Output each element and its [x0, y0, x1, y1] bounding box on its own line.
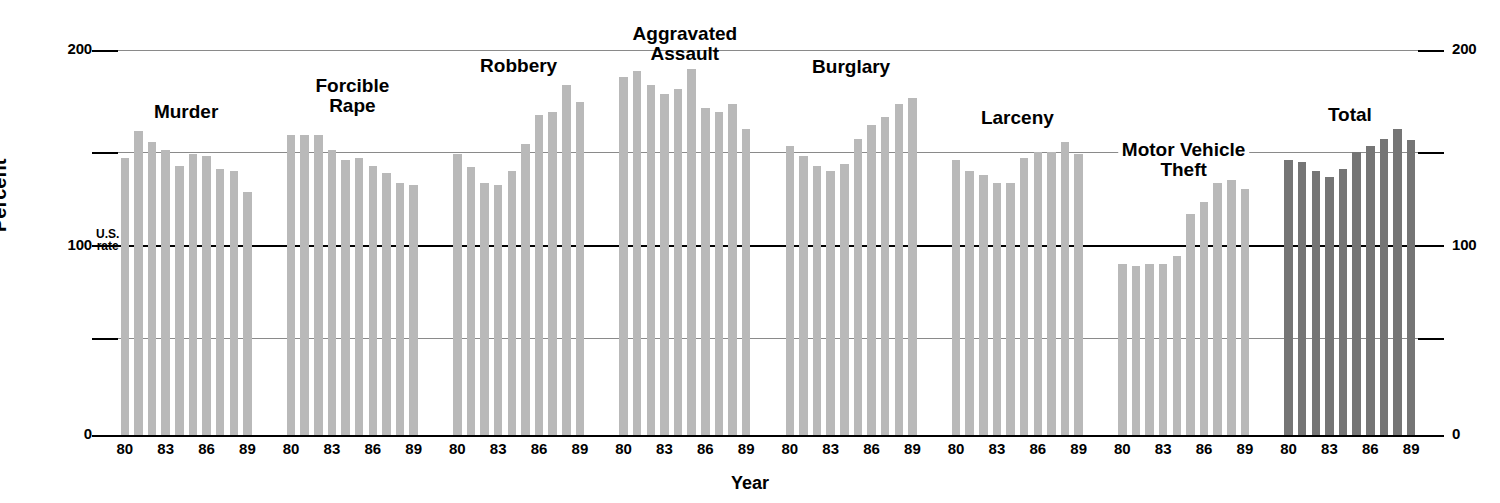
x-tick-label: 86: [1362, 440, 1379, 457]
bar: [799, 156, 807, 435]
bar-group-aggravated-assault: [617, 50, 753, 435]
bar: [895, 104, 903, 435]
x-tick-label: 83: [490, 440, 507, 457]
bar: [314, 135, 322, 435]
group-title-murder: Murder: [154, 102, 218, 122]
bar: [826, 171, 834, 435]
bar: [508, 171, 516, 435]
x-tick-label: 83: [822, 440, 839, 457]
tick-right-100: [1418, 245, 1444, 247]
x-tick-label: 80: [283, 440, 300, 457]
x-tick-label: 89: [572, 440, 589, 457]
bar: [993, 183, 1001, 435]
bar: [230, 171, 238, 435]
bar: [1298, 162, 1306, 435]
bar: [674, 89, 682, 436]
bar: [409, 185, 417, 435]
bar: [548, 112, 556, 435]
x-tick-label: 83: [989, 440, 1006, 457]
bar: [908, 98, 916, 435]
tick-left-100: [92, 245, 118, 247]
bar: [1061, 142, 1069, 435]
bar: [1407, 140, 1415, 435]
bar: [341, 160, 349, 435]
bar: [216, 169, 224, 435]
bar: [1200, 202, 1208, 435]
group-title-line: Assault: [651, 43, 720, 64]
x-tick-label: 86: [1029, 440, 1046, 457]
bars-container: [1116, 50, 1252, 435]
bar: [161, 150, 169, 435]
tick-right-0: [1418, 435, 1444, 437]
x-tick-label: 80: [1280, 440, 1297, 457]
bar: [1380, 139, 1388, 435]
bar: [1241, 189, 1249, 435]
bar: [660, 94, 668, 435]
group-title-forcible-rape: ForcibleRape: [315, 76, 389, 116]
bar: [1312, 171, 1320, 435]
bar: [813, 166, 821, 436]
bar: [687, 69, 695, 435]
bar: [1213, 183, 1221, 435]
group-title-line: Burglary: [812, 56, 890, 77]
group-title-line: Motor Vehicle: [1122, 139, 1246, 160]
x-tick-label: 80: [781, 440, 798, 457]
bar: [742, 129, 750, 435]
x-tick-label: 83: [324, 440, 341, 457]
x-tick-label: 89: [1403, 440, 1420, 457]
group-title-motor-vehicle-theft: Motor VehicleTheft: [1118, 140, 1250, 180]
bar: [965, 171, 973, 435]
bar: [369, 166, 377, 436]
tick-right-150: [1418, 152, 1444, 154]
x-tick-label: 89: [738, 440, 755, 457]
bar: [728, 104, 736, 435]
group-title-total: Total: [1328, 105, 1372, 125]
bar: [647, 85, 655, 435]
bar: [148, 142, 156, 435]
y-axis-label-0-right: 0: [1452, 425, 1498, 442]
tick-right-200: [1418, 50, 1444, 52]
bar: [1132, 266, 1140, 435]
bar: [1393, 129, 1401, 435]
bar: [243, 192, 251, 435]
y-axis-label-100-left: 100: [52, 236, 92, 253]
group-title-line: Robbery: [480, 55, 557, 76]
us-rate-annotation: U.S. rate: [96, 228, 119, 252]
bar: [786, 146, 794, 435]
x-tick-label: 83: [1155, 440, 1172, 457]
bar: [494, 185, 502, 435]
x-tick-label: 89: [405, 440, 422, 457]
tick-left-50: [92, 338, 118, 340]
group-title-robbery: Robbery: [480, 56, 557, 76]
bar: [867, 125, 875, 435]
x-tick-label: 80: [1114, 440, 1131, 457]
crime-rate-index-chart: Percent 200 100 0 U.S. rate 200 100 0 Ye…: [0, 0, 1500, 503]
bar: [1366, 146, 1374, 435]
tick-left-200: [92, 50, 118, 52]
bar: [287, 135, 295, 435]
group-title-line: Total: [1328, 104, 1372, 125]
bar: [1034, 152, 1042, 435]
x-tick-label: 80: [615, 440, 632, 457]
bar: [1074, 154, 1082, 435]
bar: [854, 139, 862, 435]
bar: [300, 135, 308, 435]
y-axis-label-0-left: 0: [52, 425, 92, 442]
bar: [576, 102, 584, 435]
bar: [1145, 264, 1153, 435]
bar: [1173, 256, 1181, 435]
bar: [453, 154, 461, 435]
bar: [467, 167, 475, 435]
x-tick-label: 80: [116, 440, 133, 457]
bar: [1352, 152, 1360, 435]
bar-group-robbery: [451, 50, 587, 435]
x-axis-baseline: [118, 435, 1418, 437]
x-tick-label: 83: [157, 440, 174, 457]
bar: [396, 183, 404, 435]
bar: [1118, 264, 1126, 435]
bar: [952, 160, 960, 435]
x-tick-label: 83: [656, 440, 673, 457]
x-tick-label: 89: [239, 440, 256, 457]
bar: [562, 85, 570, 435]
group-title-line: Murder: [154, 101, 218, 122]
